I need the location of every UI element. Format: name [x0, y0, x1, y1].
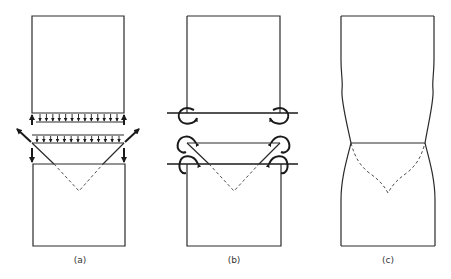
panel-c-label: (c) [382, 255, 394, 265]
moment-arrow-upper-right [270, 108, 288, 123]
right-inclined-force-arrow [125, 129, 139, 142]
panel-a-label: (a) [74, 255, 87, 265]
upper-stress-arrows [40, 114, 117, 121]
moment-arrow-upper-left [179, 108, 197, 123]
panel-c: (c) [341, 16, 435, 265]
fracture-v-lines [187, 143, 280, 164]
panel-a: (a) [17, 16, 139, 265]
moment-arrow-weld-right [271, 137, 289, 153]
fracture-v-dashed [54, 164, 103, 191]
lower-block [33, 164, 125, 246]
left-inclined-force-arrow [17, 129, 31, 142]
right-necked-profile [425, 16, 435, 246]
moment-arrow-weld-left [178, 137, 196, 153]
left-necked-profile [341, 16, 351, 246]
curved-fracture-profile [351, 143, 425, 193]
fracture-v-dashed [209, 164, 259, 191]
lower-block [187, 164, 281, 246]
upper-block [32, 16, 124, 113]
diagram-canvas: (a) (b) (c) [0, 0, 451, 279]
lower-stress-arrows [37, 136, 119, 142]
fracture-v-lines [32, 143, 124, 164]
panel-b: (b) [167, 16, 298, 265]
upper-block [187, 16, 280, 113]
panel-b-label: (b) [228, 255, 241, 265]
